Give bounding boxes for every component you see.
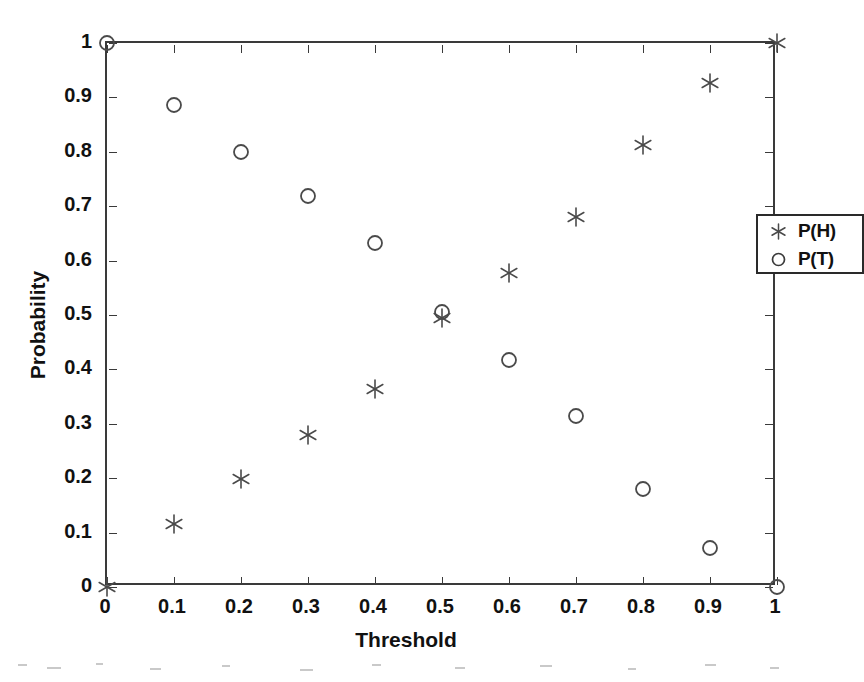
x-tick-label: 0.5 xyxy=(426,595,454,618)
x-tick xyxy=(643,577,644,585)
y-tick-label: 0.7 xyxy=(40,193,92,216)
y-tick xyxy=(109,533,117,534)
y-tick-right xyxy=(765,152,773,153)
x-tick-label: 0.2 xyxy=(225,595,253,618)
circle-icon xyxy=(758,250,798,269)
x-tick xyxy=(710,577,711,585)
y-tick-label: 0.1 xyxy=(40,519,92,542)
x-tick-top xyxy=(241,45,242,53)
y-tick xyxy=(109,152,117,153)
x-tick xyxy=(442,577,443,585)
plot-area: P(H) P(T) xyxy=(105,41,775,585)
data-point-p-t xyxy=(230,141,252,163)
x-tick xyxy=(375,577,376,585)
y-tick xyxy=(109,478,117,479)
y-tick-right xyxy=(765,206,773,207)
y-tick xyxy=(109,315,117,316)
legend-label-p-t: P(T) xyxy=(798,248,834,270)
data-point-p-h xyxy=(632,134,654,156)
y-tick xyxy=(109,369,117,370)
y-tick-label: 0.5 xyxy=(40,302,92,325)
x-tick xyxy=(777,577,778,585)
x-tick xyxy=(509,577,510,585)
x-tick xyxy=(576,577,577,585)
y-tick-right xyxy=(765,369,773,370)
x-tick-top xyxy=(509,45,510,53)
y-tick xyxy=(109,587,117,588)
x-tick xyxy=(174,577,175,585)
data-point-p-h xyxy=(163,513,185,535)
y-tick-label: 0.4 xyxy=(40,356,92,379)
data-point-p-t xyxy=(364,232,386,254)
x-tick xyxy=(107,577,108,585)
y-tick-right xyxy=(765,43,773,44)
y-tick-label: 0.3 xyxy=(40,410,92,433)
y-tick-label: 1 xyxy=(40,30,92,53)
x-tick xyxy=(308,577,309,585)
y-tick xyxy=(109,424,117,425)
x-tick xyxy=(241,577,242,585)
y-tick-label: 0.6 xyxy=(40,247,92,270)
paper-speckle xyxy=(0,655,812,682)
x-tick-top xyxy=(777,45,778,53)
y-tick xyxy=(109,43,117,44)
x-tick-label: 0.3 xyxy=(292,595,320,618)
data-point-p-h xyxy=(297,424,319,446)
y-tick xyxy=(109,206,117,207)
y-tick-label: 0 xyxy=(40,574,92,597)
x-tick-label: 0.4 xyxy=(359,595,387,618)
x-tick-top xyxy=(107,45,108,53)
x-tick-label: 0.7 xyxy=(560,595,588,618)
x-axis-title: Threshold xyxy=(0,628,812,652)
x-tick-top xyxy=(442,45,443,53)
x-tick-label: 0.1 xyxy=(158,595,186,618)
legend-box: P(H) P(T) xyxy=(756,214,864,274)
x-tick-label: 1 xyxy=(769,595,780,618)
data-point-p-t xyxy=(565,405,587,427)
y-tick-label: 0.9 xyxy=(40,84,92,107)
y-tick xyxy=(109,261,117,262)
y-tick-right xyxy=(765,587,773,588)
x-tick-label: 0.6 xyxy=(493,595,521,618)
y-tick-right xyxy=(765,97,773,98)
y-tick-right xyxy=(765,478,773,479)
x-tick-top xyxy=(576,45,577,53)
y-tick-right xyxy=(765,315,773,316)
y-tick-right xyxy=(765,424,773,425)
asterisk-icon xyxy=(758,222,798,241)
x-tick-top xyxy=(643,45,644,53)
y-tick-label: 0.2 xyxy=(40,465,92,488)
data-point-p-t xyxy=(297,185,319,207)
data-point-p-h xyxy=(364,378,386,400)
legend-label-p-h: P(H) xyxy=(798,220,836,242)
y-tick-right xyxy=(765,533,773,534)
data-point-p-t xyxy=(632,478,654,500)
data-point-p-h xyxy=(230,468,252,490)
x-tick-top xyxy=(375,45,376,53)
x-tick-top xyxy=(710,45,711,53)
data-point-p-h xyxy=(498,262,520,284)
x-tick-label: 0.9 xyxy=(694,595,722,618)
y-tick-label: 0.8 xyxy=(40,138,92,161)
legend-entry-p-h: P(H) xyxy=(758,218,862,244)
data-point-p-h xyxy=(431,307,453,329)
legend-entry-p-t: P(T) xyxy=(758,246,862,272)
data-point-p-t xyxy=(431,301,453,323)
data-point-p-t xyxy=(498,349,520,371)
y-tick xyxy=(109,97,117,98)
x-tick-top xyxy=(308,45,309,53)
data-point-p-h xyxy=(699,72,721,94)
x-tick-top xyxy=(174,45,175,53)
data-point-p-t xyxy=(163,94,185,116)
x-tick-label: 0 xyxy=(99,595,110,618)
data-point-p-t xyxy=(699,537,721,559)
x-tick-label: 0.8 xyxy=(627,595,655,618)
data-point-p-h xyxy=(565,206,587,228)
